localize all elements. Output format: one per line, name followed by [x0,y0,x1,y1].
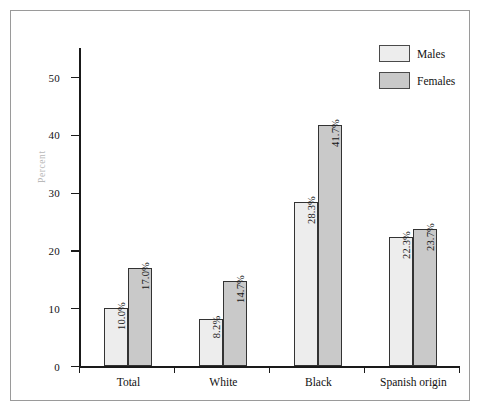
legend-swatch [379,45,410,62]
x-axis-tick [269,366,270,373]
y-axis-tick-label: 20 [49,245,60,257]
bar: 22.3% [389,237,413,366]
bar-value-label: 14.7% [235,275,246,303]
x-axis-category-label: Black [305,376,332,388]
bar-value-label: 17.0% [140,262,151,290]
y-axis-tick-label: 30 [49,187,60,199]
y-axis-title: Percent [37,150,47,183]
figure-frame: Percent 01020304050 10.0%17.0%8.2%14.7%2… [10,10,470,401]
y-axis-tick: 30 [71,193,79,194]
y-axis-line [79,48,81,366]
y-axis-tick: 10 [71,308,79,309]
bar-value-label: 23.7% [425,223,436,251]
y-axis-tick: 40 [71,135,79,136]
y-axis-tick-label: 50 [49,72,60,84]
chart-figure: Percent 01020304050 10.0%17.0%8.2%14.7%2… [0,0,482,416]
legend-swatch [379,72,410,89]
bar-value-label: 28.3% [306,196,317,224]
legend-item: Males [379,45,455,62]
bar: 14.7% [223,281,247,366]
y-axis-tick: 0 [71,366,79,367]
x-axis-tick [174,366,175,373]
legend-label: Females [417,75,455,87]
x-axis-category-label: White [209,376,237,388]
legend-label: Males [417,48,445,60]
y-axis-tick: 50 [71,77,79,78]
bar: 41.7% [318,125,342,366]
bar: 8.2% [199,319,223,366]
x-axis-tick [459,366,460,373]
x-axis-tick [79,366,80,373]
x-axis-tick [364,366,365,373]
y-axis-tick-label: 10 [49,303,60,315]
bar: 17.0% [128,268,152,366]
legend: MalesFemales [379,45,455,99]
bar-value-label: 22.3% [401,231,412,259]
bar-value-label: 10.0% [116,302,127,330]
bar: 28.3% [294,202,318,366]
y-axis-tick-label: 40 [49,129,60,141]
x-axis-category-label: Spanish origin [380,376,447,388]
y-axis-tick-label: 0 [54,361,60,373]
bar-value-label: 41.7% [330,119,341,147]
x-axis-category-label: Total [117,376,140,388]
bar: 10.0% [104,308,128,366]
bar: 23.7% [413,229,437,366]
y-axis-tick: 20 [71,250,79,251]
bar-value-label: 8.2% [211,315,222,338]
legend-item: Females [379,72,455,89]
